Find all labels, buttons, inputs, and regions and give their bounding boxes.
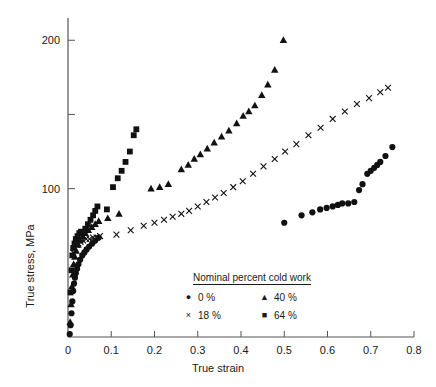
series-1: [70, 85, 391, 255]
data-point-square: [110, 184, 116, 190]
data-point-cross: [354, 101, 360, 107]
data-point-cross: [152, 220, 158, 226]
data-point-cross: [230, 184, 236, 190]
data-point-circle: [356, 187, 362, 193]
data-point-circle: [377, 159, 383, 165]
data-point-cross: [261, 163, 267, 169]
data-point-square: [133, 126, 139, 132]
data-point-circle: [324, 205, 330, 211]
data-point-triangle: [156, 183, 163, 190]
data-point-triangle: [104, 214, 111, 221]
data-point-square: [119, 168, 125, 174]
legend: Nominal percent cold work ● 0 % ▲ 40 % ×…: [176, 272, 328, 321]
data-point-cross: [366, 95, 372, 101]
data-point-triangle: [258, 91, 265, 98]
legend-row: ● 0 % ▲ 40 %: [176, 292, 328, 303]
data-point-cross: [141, 223, 147, 229]
data-point-circle: [309, 209, 315, 215]
data-point-cross: [240, 178, 246, 184]
legend-item-3: ■ 64 %: [252, 310, 328, 321]
square-marker-icon: ■: [260, 311, 269, 320]
x-tick-label: 0.7: [363, 344, 378, 356]
data-point-circle: [68, 310, 74, 316]
y-tick-label: 100: [26, 183, 60, 195]
data-point-triangle: [165, 180, 172, 187]
legend-label-2: 18 %: [198, 310, 221, 321]
data-point-circle: [281, 220, 287, 226]
data-point-square: [69, 267, 75, 273]
data-point-cross: [212, 195, 218, 201]
data-point-triangle: [245, 108, 252, 115]
data-point-square: [69, 252, 75, 258]
plot-area: [0, 0, 436, 387]
data-point-cross: [306, 132, 312, 138]
data-point-cross: [342, 109, 348, 115]
data-point-triangle: [271, 66, 278, 73]
chart-figure: True stress, MPa True strain Nominal per…: [0, 0, 436, 387]
legend-row: × 18 % ■ 64 %: [176, 310, 328, 321]
data-point-cross: [385, 85, 391, 91]
x-tick-label: 0.1: [104, 344, 119, 356]
data-point-triangle: [233, 119, 240, 126]
data-point-triangle: [147, 185, 154, 192]
y-tick-label: 200: [26, 34, 60, 46]
data-point-circle: [359, 181, 365, 187]
data-point-square: [115, 175, 121, 181]
data-point-cross: [318, 125, 324, 131]
data-point-cross: [221, 190, 227, 196]
x-tick-label: 0.6: [320, 344, 335, 356]
data-point-cross: [330, 116, 336, 122]
data-point-cross: [250, 171, 256, 177]
data-point-triangle: [191, 155, 198, 162]
data-point-triangle: [204, 145, 211, 152]
x-tick-label: 0.4: [233, 344, 248, 356]
data-point-cross: [377, 89, 383, 95]
legend-item-0: ● 0 %: [176, 292, 252, 303]
data-point-circle: [317, 206, 323, 212]
cross-marker-icon: ×: [184, 311, 193, 320]
legend-title: Nominal percent cold work: [193, 272, 311, 285]
data-point-triangle: [239, 112, 246, 119]
data-point-cross: [186, 208, 192, 214]
data-point-cross: [195, 204, 201, 210]
data-point-cross: [161, 217, 167, 223]
data-point-square: [104, 207, 110, 213]
data-point-triangle: [197, 151, 204, 158]
triangle-marker-icon: ▲: [260, 293, 269, 302]
x-tick-label: 0.3: [190, 344, 205, 356]
data-point-triangle: [280, 36, 287, 43]
data-point-circle: [351, 199, 357, 205]
data-point-triangle: [115, 210, 122, 217]
data-point-square: [131, 132, 137, 138]
circle-marker-icon: ●: [184, 293, 193, 302]
x-axis-label: True strain: [0, 362, 436, 374]
data-point-cross: [282, 149, 288, 155]
data-point-cross: [272, 156, 278, 162]
data-point-triangle: [185, 161, 192, 168]
data-point-square: [68, 290, 74, 296]
data-point-cross: [178, 211, 184, 217]
data-point-circle: [382, 153, 388, 159]
data-point-cross: [114, 232, 120, 238]
legend-item-1: ▲ 40 %: [252, 292, 328, 303]
data-point-triangle: [225, 127, 232, 134]
legend-label-3: 64 %: [274, 310, 297, 321]
data-point-circle: [389, 144, 395, 150]
data-point-triangle: [95, 217, 102, 224]
data-point-triangle: [264, 81, 271, 88]
data-point-circle: [339, 200, 345, 206]
legend-label-1: 40 %: [274, 292, 297, 303]
data-point-cross: [293, 141, 299, 147]
data-point-square: [127, 149, 133, 155]
x-tick-label: 0.2: [147, 344, 162, 356]
x-tick-label: 0.5: [277, 344, 292, 356]
legend-label-0: 0 %: [198, 292, 215, 303]
data-point-cross: [204, 199, 210, 205]
data-point-circle: [345, 200, 351, 206]
data-point-square: [95, 204, 101, 210]
data-point-square: [123, 159, 129, 165]
x-tick-label: 0: [65, 344, 71, 356]
data-point-circle: [298, 212, 304, 218]
data-point-triangle: [251, 102, 258, 109]
data-point-cross: [128, 227, 134, 233]
